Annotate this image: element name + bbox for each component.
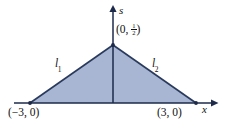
x-axis-label: x <box>202 104 207 115</box>
s-axis-arrowhead-icon <box>109 5 116 12</box>
vertex-label-top-open: (0, <box>116 23 131 35</box>
vertex-label-top-close: ) <box>137 23 141 35</box>
vertex-dot-top <box>111 43 115 47</box>
line-label-l1-subscript: 1 <box>58 65 62 74</box>
line-label-l2-subscript: 2 <box>155 65 159 74</box>
fraction-denominator: 2 <box>131 29 136 37</box>
s-axis-label: s <box>119 5 123 16</box>
fraction-one-half: 12 <box>131 23 136 37</box>
fraction-numerator: 1 <box>131 23 136 30</box>
vertex-dot-left <box>28 101 32 105</box>
vertex-label-top: (0, 12) <box>116 23 140 37</box>
vertex-label-left: (−3, 0) <box>8 107 39 119</box>
line-label-l1: l1 <box>55 58 62 72</box>
vertex-label-right: (3, 0) <box>157 107 182 119</box>
line-label-l2: l2 <box>152 58 159 72</box>
x-axis-arrowhead-icon <box>211 99 219 106</box>
vertex-dot-right <box>194 101 198 105</box>
